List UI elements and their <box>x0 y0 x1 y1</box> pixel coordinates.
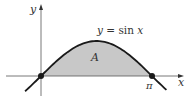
origin-point <box>38 73 44 79</box>
equation-mid: = sin <box>103 24 137 36</box>
pi-tick-label: π <box>145 80 153 91</box>
y-axis-arrow-icon <box>39 4 43 10</box>
y-axis-label: y <box>29 3 37 16</box>
sine-area-figure: y x π A y = sin x <box>0 0 192 104</box>
equation-x: x <box>137 24 143 36</box>
equation-label: y = sin x <box>96 24 143 36</box>
region-label: A <box>90 51 99 64</box>
pi-point <box>149 73 155 79</box>
x-axis-label: x <box>178 76 185 89</box>
